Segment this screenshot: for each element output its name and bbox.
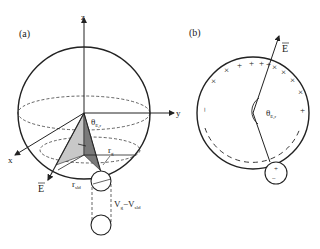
droplet-charge-plus: + (274, 165, 278, 173)
svg-text:×: × (224, 65, 229, 75)
z-axis-label: z (81, 12, 85, 22)
field-label: E (38, 183, 44, 194)
droplet (91, 171, 111, 191)
svg-text:+: + (259, 58, 264, 68)
panel-b: (b) E θE,r × × + + + + × × × × + − (189, 27, 309, 184)
droplet-charge-minus: − (272, 175, 276, 183)
svg-text:×: × (298, 87, 303, 97)
panel-b-label: (b) (189, 27, 201, 39)
volume-label: Vg−Vsld (114, 199, 141, 210)
field-arrow-b (253, 36, 279, 113)
field-label-b: E (282, 43, 288, 54)
svg-text:+: + (266, 59, 271, 69)
figure: (a) z y x E θE,r (0, 0, 320, 249)
svg-text:×: × (211, 76, 216, 86)
svg-text:+: + (300, 105, 305, 115)
svg-text:+: + (237, 60, 242, 70)
svg-text:+: + (249, 58, 254, 68)
svg-text:×: × (290, 75, 295, 85)
panel-a-label: (a) (19, 28, 30, 40)
svg-text:−: − (200, 107, 210, 112)
radius-line-b (253, 113, 270, 162)
panel-a: (a) z y x E θE,r (8, 12, 181, 235)
y-axis-label: y (176, 108, 181, 118)
svg-text:×: × (281, 67, 286, 77)
radius-g-pointer (103, 156, 110, 165)
droplet-projection (91, 215, 111, 235)
angle-label: θE,r (91, 117, 102, 129)
x-axis-label: x (8, 155, 13, 165)
angle-label-b: θE,r (266, 108, 277, 120)
svg-text:×: × (272, 62, 277, 72)
radius-sld-label: rsld (72, 179, 81, 190)
radius-g-label: rg (108, 145, 114, 156)
